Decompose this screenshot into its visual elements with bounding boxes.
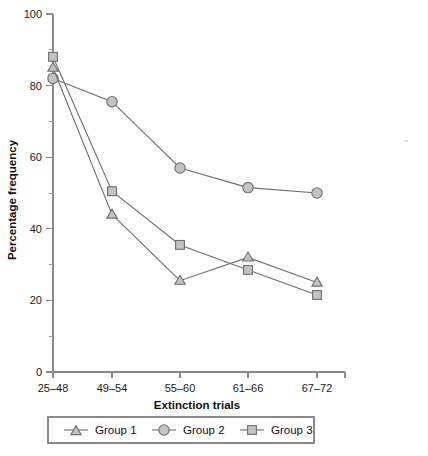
data-point-group-2 bbox=[175, 163, 185, 173]
y-tick-labels: 100 80 60 40 20 0 bbox=[24, 8, 42, 378]
line-chart: 100 80 60 40 20 0 25–48 49–54 55–60 61–6… bbox=[0, 0, 428, 456]
legend-item-group-3[interactable]: Group 3 bbox=[240, 424, 313, 436]
legend-item-group-2[interactable]: Group 2 bbox=[152, 424, 225, 436]
x-tick-label: 61–66 bbox=[233, 382, 264, 394]
x-tick-labels: 25–48 49–54 55–60 61–66 67–72 bbox=[38, 382, 333, 394]
x-tick-label: 49–54 bbox=[97, 382, 128, 394]
data-point-group-1 bbox=[243, 252, 253, 261]
data-point-group-3 bbox=[244, 266, 253, 275]
series-line-group-3 bbox=[53, 57, 317, 295]
data-point-group-2 bbox=[312, 188, 322, 198]
x-tick-label: 55–60 bbox=[165, 382, 196, 394]
y-tick-label: 60 bbox=[30, 151, 42, 163]
x-tick-label: 67–72 bbox=[302, 382, 333, 394]
y-tick-label: 40 bbox=[30, 223, 42, 235]
y-tick-label: 20 bbox=[30, 294, 42, 306]
y-tick-label: 100 bbox=[24, 8, 42, 20]
y-axis-title: Percentage frequency bbox=[6, 139, 18, 260]
chart-figure: 100 80 60 40 20 0 25–48 49–54 55–60 61–6… bbox=[0, 0, 428, 456]
y-tick-label: 0 bbox=[36, 366, 42, 378]
series-group-3 bbox=[49, 52, 322, 299]
data-point-group-2 bbox=[243, 182, 253, 192]
data-point-group-3 bbox=[313, 291, 322, 300]
legend-label-group-3: Group 3 bbox=[271, 424, 313, 436]
x-axis-ticks bbox=[53, 372, 345, 378]
square-icon bbox=[248, 426, 257, 435]
data-point-group-3 bbox=[108, 187, 117, 196]
x-axis-title: Extinction trials bbox=[154, 399, 240, 411]
chart-legend: Group 1 Group 2 Group 3 bbox=[48, 417, 314, 443]
data-point-group-3 bbox=[176, 241, 185, 250]
series-group-2 bbox=[48, 73, 322, 198]
data-point-group-2 bbox=[48, 73, 58, 83]
scan-artifact bbox=[404, 140, 408, 142]
legend-label-group-1: Group 1 bbox=[95, 424, 137, 436]
x-tick-label: 25–48 bbox=[38, 382, 69, 394]
axis-lines bbox=[53, 14, 345, 372]
series-line-group-2 bbox=[53, 78, 317, 193]
series-line-group-1 bbox=[53, 68, 317, 283]
data-point-group-2 bbox=[107, 97, 117, 107]
y-tick-label: 80 bbox=[30, 80, 42, 92]
y-axis-minor-ticks bbox=[49, 50, 53, 336]
series-group-1 bbox=[48, 62, 322, 286]
data-point-group-1 bbox=[48, 62, 58, 71]
legend-label-group-2: Group 2 bbox=[183, 424, 225, 436]
data-point-group-1 bbox=[107, 209, 117, 218]
data-point-group-3 bbox=[49, 52, 58, 61]
circle-icon bbox=[159, 425, 169, 435]
